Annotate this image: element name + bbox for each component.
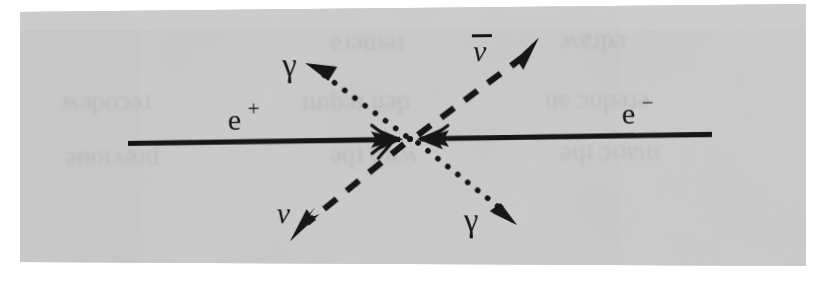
positron-charge-superscript: + [248, 97, 260, 121]
ghost-line-8: ǝɥʇ ɔıʇɐɯ [560, 135, 660, 166]
positron-label-text: e [228, 103, 242, 136]
feynman-diagram-canvas: ɐɹǝɯǝɹʍɐɹpǝʍǝpoɔǝɹɹınbǝɹ uǝpuɐ ɔopǝɹǝǝno… [0, 0, 818, 282]
antineutrino-overbar [472, 34, 492, 37]
ghost-line-2: ʍɐɹpǝ [560, 23, 626, 54]
antineutrino-label-text: ν [473, 34, 487, 67]
neutrino-label: ν [277, 196, 291, 229]
figure-root: ɐɹǝɯǝɹʍɐɹpǝʍǝpoɔǝɹɹınbǝɹ uǝpuɐ ɔopǝɹǝǝno… [0, 0, 818, 282]
photon-lower-label: γ [463, 202, 479, 238]
photon-upper-label: γ [281, 47, 297, 83]
ghost-line-3: ʍǝpoɔǝɹ [60, 85, 152, 116]
ghost-line-1: ɐɹǝɯǝɹ [330, 25, 405, 56]
electron-charge-superscript: − [641, 90, 653, 114]
electron-label-text: e [622, 97, 636, 130]
